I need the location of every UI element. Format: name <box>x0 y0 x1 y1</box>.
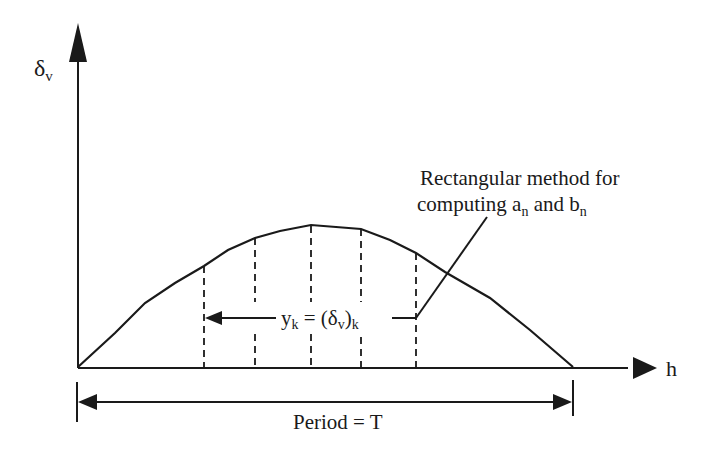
annotation-line-1: Rectangular method for <box>420 166 619 190</box>
y-axis-arrowhead <box>69 23 87 62</box>
curve <box>78 225 573 367</box>
y-axis-label: δv <box>34 55 53 84</box>
annotation-leader-line <box>416 217 487 318</box>
x-axis-label: h <box>666 356 677 381</box>
diagram-canvas: δv h Rectangular method for computing an… <box>0 0 708 461</box>
period-right-arrowhead <box>553 394 572 410</box>
ordinate-arrowhead <box>205 311 222 325</box>
annotation-line-2: computing an and bn <box>417 192 587 219</box>
period-left-arrowhead <box>78 394 97 410</box>
x-axis-arrowhead <box>633 357 657 379</box>
period-label: Period = T <box>293 410 383 434</box>
diagram-svg: δv h Rectangular method for computing an… <box>0 0 708 461</box>
